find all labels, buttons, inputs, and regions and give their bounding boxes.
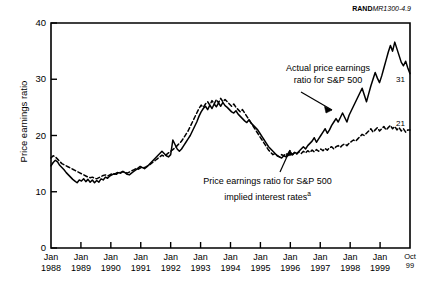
chart-figure: RANDMR1300-4.9 Price earnings ratio 0102… — [0, 0, 422, 296]
annotation-footnote-marker: a — [307, 190, 311, 197]
annotation-actual: Actual price earnings ratio for S&P 500 — [248, 63, 408, 86]
end-label-actual: 31 — [396, 76, 405, 84]
x-tick-99: Oct99 — [390, 252, 422, 270]
annotation-implied-line2: implied interest ratesa — [175, 188, 360, 204]
annotation-actual-line2: ratio for S&P 500 — [248, 75, 408, 87]
annotation-implied: Price earnings ratio for S&P 500 implied… — [175, 176, 360, 203]
y-tick-20: 20 — [20, 131, 46, 141]
y-tick-40: 40 — [20, 18, 46, 28]
end-label-implied: 21 — [396, 120, 405, 128]
y-tick-30: 30 — [20, 74, 46, 84]
y-tick-10: 10 — [20, 187, 46, 197]
x-tick-year: 99 — [390, 261, 422, 270]
annotation-actual-line1: Actual price earnings — [248, 63, 408, 75]
annotation-implied-line1: Price earnings ratio for S&P 500 — [175, 176, 360, 188]
x-tick-month: Oct — [390, 252, 422, 261]
